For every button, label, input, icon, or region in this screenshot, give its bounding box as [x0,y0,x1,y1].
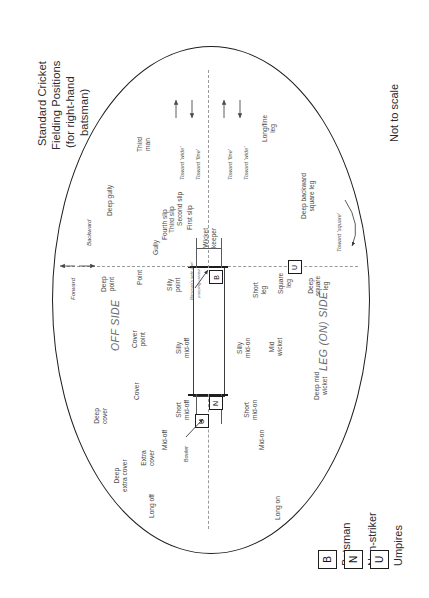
legend-symbol-nonstriker-text: N [348,556,359,563]
position-third-man: Thirdman [136,137,152,152]
position-short-mid-on: Shortmid-on [243,400,259,420]
position-point: Point [136,270,143,285]
legend-symbol-batsman-text: B [322,556,333,563]
not-to-scale-note: Not to scale [388,84,400,142]
off-side-label: OFF SIDE [110,300,122,351]
position-third-slip: Third slip [168,206,175,233]
bowler-label: Bowler [184,446,190,462]
toward-fine-offside-label: Toward 'fine' [195,149,201,180]
position-long-off: Long off [148,494,155,518]
position-deep-square-leg: Deepsquareleg [307,276,329,296]
nonstriker-marker-label: N [213,400,220,405]
position-silly-point: Sillypoint [166,278,182,292]
legend-symbol-umpires-text: U [374,556,385,563]
legend-label-umpires: Umpires [392,525,404,566]
striker-return-crease-left [196,238,197,268]
position-square-leg: Squareleg [277,273,293,294]
position-long-on: Long on [274,496,281,520]
position-mid-wicket: Midwicket [268,338,284,356]
position-gully: Gully [152,240,159,255]
backward-axis-label: Backward [86,220,93,246]
position-wicket-keeper: Wicketkeeper [202,228,218,248]
position-extra-cover: Extracover [140,450,156,466]
position-short-mid-off: Shortmid-off [175,400,191,420]
position-mid-on: Mid-on [258,430,265,450]
position-deep-cover: Deepcover [93,408,109,424]
umpire-bowler-end-label: U [199,418,206,423]
umpire-bowler-end-marker: U [195,414,209,428]
umpire-square-leg-label: U [292,264,299,269]
position-long-fine-leg: Long/fineleg [261,115,277,142]
striker-return-crease-right [221,238,222,268]
position-deep-mid-wicket: Deep midwicket [313,372,329,400]
toward-wide-offside-label: Toward 'wide' [179,147,185,180]
legend-symbol-nonstriker: N [344,550,363,569]
page-title-line-1: Standard Cricket [36,61,49,146]
popping-crease-annotation-line-1: Batsman's safe line/ [189,262,194,300]
position-cover: Cover [133,382,140,400]
position-silly-mid-off: Sillymid-off [175,338,191,358]
cricket-field-diagram: Standard Cricket Fielding Positions (for… [0,0,429,598]
batsman-marker: B [209,270,223,284]
position-deep-extra-cover: Deepextra cover [113,459,129,492]
legend-symbol-umpires: U [370,550,389,569]
position-cover-point: Coverpoint [131,330,147,348]
position-short-leg: Shortleg [252,282,268,298]
position-deep-gully: Deep gully [106,185,113,216]
toward-fine-legside-label: Toward 'fine' [227,149,233,180]
nonstriker-marker: N [209,396,223,410]
position-first-slip: First slip [186,205,193,230]
position-silly-mid-on: Sillymid-on [236,338,252,358]
position-deep-backward-square-leg: Deep backwardsquare leg [300,173,316,219]
page-title-line-3: (for right-hand [64,76,77,148]
batsman-marker-label: B [212,275,219,280]
forward-axis-label: Forward [70,278,77,300]
page-title-line-4: batsman) [78,89,91,136]
striker-wicket-line [196,248,222,249]
position-deep-point: Deeppoint [100,276,116,292]
popping-crease-annotation-line-2: popping crease [196,269,201,298]
position-mid-off: Mid-off [161,430,168,450]
square-of-wicket-dash-left [62,266,190,267]
legend-symbol-batsman: B [318,550,337,569]
leg-side-label: LEG (ON) SIDE [318,292,330,371]
toward-wide-legside-label: Toward 'wide' [243,147,249,180]
position-second-slip: Second slip [176,192,183,226]
toward-square-label: Toward 'square' [336,213,342,252]
page-title-line-2: Fielding Positions [50,61,63,150]
